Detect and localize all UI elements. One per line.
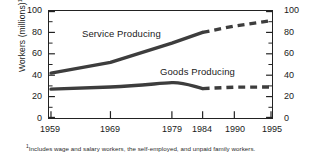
x-axis-ticks (51, 111, 271, 118)
x-axis-tick-label-1984: 1984 (187, 125, 217, 134)
plot-area: Service Producing Goods Producing (48, 10, 273, 119)
series-line-goods-producing-actual (51, 83, 203, 90)
x-axis-tick-label-1979: 1979 (157, 125, 187, 134)
y-axis-tick-label-left-20: 20 (18, 92, 42, 101)
y-axis-title-footnote-marker: 1 (17, 0, 23, 2)
series-label-service-producing: Service Producing (82, 28, 161, 39)
chart-figure: Workers (millions)1 100 80 60 40 20 0 10… (0, 0, 333, 155)
series-line-goods-producing-projected (203, 87, 271, 89)
footnote-text: Includes wage and salary workers, the se… (29, 145, 255, 152)
y-axis-tick-label-left-100: 100 (18, 6, 42, 15)
y-axis-tick-label-right-40: 40 (284, 71, 308, 80)
y-axis-minor-ticks-left (49, 22, 53, 108)
series-line-service-producing-projected (203, 21, 271, 33)
y-axis-tick-label-left-40: 40 (18, 71, 42, 80)
y-axis-tick-label-right-0: 0 (284, 114, 308, 123)
x-axis-tick-label-1995: 1995 (257, 125, 287, 134)
series-label-goods-producing: Goods Producing (160, 66, 235, 77)
y-axis-tick-label-right-60: 60 (284, 49, 308, 58)
y-axis-tick-label-right-20: 20 (284, 92, 308, 101)
y-axis-minor-ticks-right (268, 22, 272, 108)
y-axis-tick-label-right-80: 80 (284, 28, 308, 37)
y-axis-tick-label-left-60: 60 (18, 49, 42, 58)
footnote: 1Includes wage and salary workers, the s… (26, 143, 255, 152)
y-axis-tick-label-left-0: 0 (18, 114, 42, 123)
x-axis-tick-label-1969: 1969 (95, 125, 125, 134)
x-axis-tick-label-1990: 1990 (220, 125, 250, 134)
y-axis-tick-label-right-100: 100 (284, 6, 308, 15)
x-axis-tick-label-1959: 1959 (35, 125, 65, 134)
y-axis-tick-label-left-80: 80 (18, 28, 42, 37)
